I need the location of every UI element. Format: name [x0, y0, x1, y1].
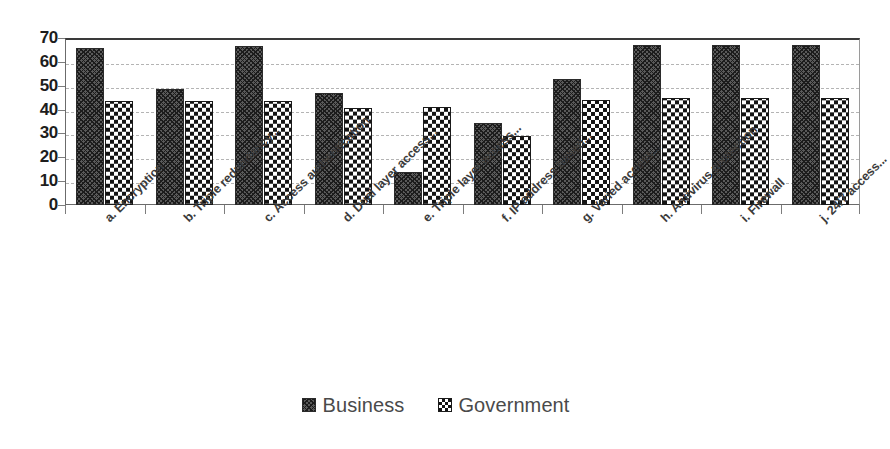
y-tick-label: 70	[16, 29, 58, 46]
x-tick-mark	[463, 205, 464, 214]
x-tick-mark	[383, 205, 384, 214]
y-tick-label: 10	[16, 172, 58, 189]
x-tick-mark	[701, 205, 702, 214]
x-tick-mark	[622, 205, 623, 214]
government-pattern-swatch	[438, 398, 452, 412]
x-tick-mark	[304, 205, 305, 214]
legend-label: Business	[322, 394, 404, 417]
legend-entry[interactable]: Government	[438, 394, 569, 417]
y-tick-label: 20	[16, 148, 58, 165]
legend-label: Government	[458, 394, 569, 417]
bar-group	[701, 38, 781, 205]
bar-business	[792, 45, 820, 205]
y-tick-label: 50	[16, 77, 58, 94]
bar-business	[633, 45, 661, 205]
chart-legend: BusinessGovernment	[0, 385, 872, 425]
y-tick-label: 40	[16, 101, 58, 118]
bar-group	[224, 38, 304, 205]
bar-group	[65, 38, 145, 205]
y-tick-label: 0	[16, 196, 58, 213]
y-tick-label: 60	[16, 53, 58, 70]
bar-business	[235, 46, 263, 205]
x-tick-mark	[224, 205, 225, 214]
bar-group	[781, 38, 861, 205]
bar-group	[383, 38, 463, 205]
x-tick-mark	[542, 205, 543, 214]
bar-business	[76, 48, 104, 205]
x-tick-mark	[145, 205, 146, 214]
bar-business	[712, 45, 740, 205]
y-tick-label: 30	[16, 124, 58, 141]
x-axis-labels: a. Encryptionb. Triple redundancy...c. A…	[0, 215, 872, 340]
bar-group	[542, 38, 622, 205]
x-tick-mark	[65, 205, 66, 214]
x-tick-mark	[781, 205, 782, 214]
business-pattern-swatch	[302, 398, 316, 412]
legend-entry[interactable]: Business	[302, 394, 404, 417]
x-tick-mark	[859, 205, 860, 214]
bar-business	[156, 89, 184, 205]
bar-business	[394, 172, 422, 205]
